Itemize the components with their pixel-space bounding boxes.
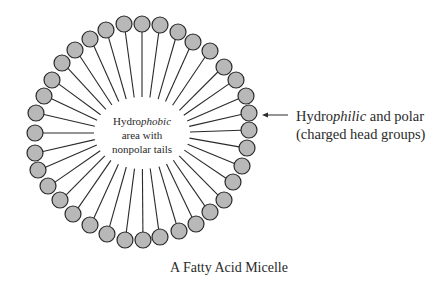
fatty-acid-tail <box>46 145 97 167</box>
fatty-acid-tail <box>59 84 101 115</box>
fatty-acid-tail <box>68 68 106 109</box>
fatty-acid-tail <box>166 49 190 102</box>
fatty-acid-tail <box>179 156 218 195</box>
polar-head-group <box>30 162 46 178</box>
fatty-acid-tail <box>158 40 175 100</box>
polar-head-group <box>202 43 218 59</box>
fatty-acid-tail <box>184 150 226 178</box>
side-label-suffix: and polar <box>366 108 424 124</box>
fatty-acid-tail <box>150 169 158 230</box>
fatty-acid-tail <box>94 46 119 102</box>
polar-head-group <box>225 174 241 190</box>
fatty-acid-tail <box>66 156 105 195</box>
center-label-line3: nonpolar tails <box>97 142 187 156</box>
polar-head-group <box>36 88 52 104</box>
polar-head-group <box>238 88 254 104</box>
polar-head-group <box>134 16 150 32</box>
fatty-acid-tail <box>55 151 100 182</box>
polar-head-group <box>188 216 204 232</box>
center-label-italic: phobic <box>141 115 171 127</box>
polar-head-group <box>82 217 98 233</box>
polar-head-group <box>65 206 81 222</box>
fatty-acid-tail <box>125 32 134 98</box>
polar-head-group <box>152 17 168 33</box>
polar-head-group <box>135 232 151 248</box>
fatty-acid-tail <box>159 167 176 224</box>
polar-head-group <box>67 42 83 58</box>
polar-head-group <box>28 105 44 121</box>
polar-head-group <box>40 178 56 194</box>
polar-head-group <box>82 31 98 47</box>
polar-head-group <box>228 72 244 88</box>
polar-head-group <box>98 22 114 38</box>
polar-head-group <box>216 192 232 208</box>
fatty-acid-tail <box>190 130 241 132</box>
side-label-line2: (charged head groups) <box>296 125 425 143</box>
polar-head-group <box>241 105 257 121</box>
fatty-acid-tail <box>52 99 98 121</box>
polar-head-group <box>241 122 257 138</box>
fatty-acid-tail <box>190 138 240 147</box>
center-label-prefix: Hydro <box>113 115 141 127</box>
polar-head-group <box>185 34 201 50</box>
fatty-acid-tail <box>188 144 235 163</box>
fatty-acid-tail <box>78 160 111 208</box>
hydrophobic-core-label: Hydrophobic area with nonpolar tails <box>97 114 187 156</box>
polar-head-group <box>44 72 60 88</box>
polar-head-group <box>116 16 132 32</box>
fatty-acid-tail <box>80 56 112 105</box>
fatty-acid-tail <box>187 99 238 121</box>
polar-head-group <box>54 55 70 71</box>
polar-head-group <box>27 125 43 141</box>
polar-head-group <box>234 158 250 174</box>
side-label-prefix: Hydro <box>296 108 333 124</box>
fatty-acid-tail <box>109 38 127 99</box>
fatty-acid-tail <box>142 169 143 232</box>
polar-head-group <box>99 226 115 242</box>
fatty-acid-tail <box>110 167 127 226</box>
figure-caption: A Fatty Acid Micelle <box>0 260 448 276</box>
polar-head-group <box>216 59 232 75</box>
polar-head-group <box>152 229 168 245</box>
fatty-acid-tail <box>167 164 192 217</box>
polar-head-group <box>52 192 68 208</box>
polar-head-group <box>27 145 43 161</box>
fatty-acid-tail <box>44 115 95 127</box>
fatty-acid-tail <box>150 33 159 98</box>
polar-head-group <box>170 24 186 40</box>
fatty-acid-tail <box>173 57 205 105</box>
fatty-acid-tail <box>173 160 205 206</box>
fatty-acid-tail <box>126 169 134 233</box>
polar-head-group <box>202 204 218 220</box>
arrow-icon <box>262 113 288 118</box>
polar-head-group <box>171 223 187 239</box>
polar-head-group <box>117 232 133 248</box>
polar-head-group <box>239 140 255 156</box>
center-label-line2: area with <box>97 128 187 142</box>
hydrophilic-heads-label: Hydrophilic and polar (charged head grou… <box>296 107 425 143</box>
side-label-italic: philic <box>333 108 366 124</box>
